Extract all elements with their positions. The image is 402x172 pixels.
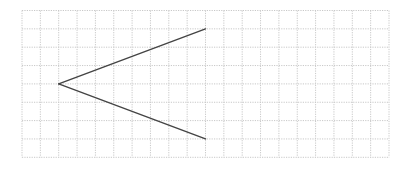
grid (22, 11, 389, 158)
angle-diagram (0, 0, 402, 172)
